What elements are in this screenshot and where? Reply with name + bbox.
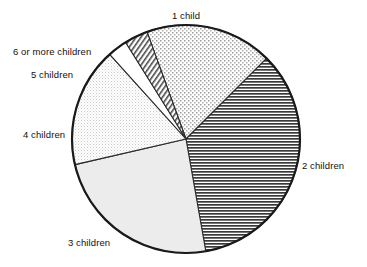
pie-label-1-child: 1 child (172, 10, 200, 21)
pie-chart: 1 child 2 children 3 children 4 children… (0, 0, 367, 267)
pie-label-3-children: 3 children (68, 237, 110, 248)
pie-label-6-or-more-children: 6 or more children (13, 46, 91, 57)
pie-label-4-children: 4 children (23, 129, 65, 140)
pie-label-5-children: 5 children (31, 69, 73, 80)
pie-slices (72, 25, 300, 253)
pie-label-2-children: 2 children (302, 160, 344, 171)
